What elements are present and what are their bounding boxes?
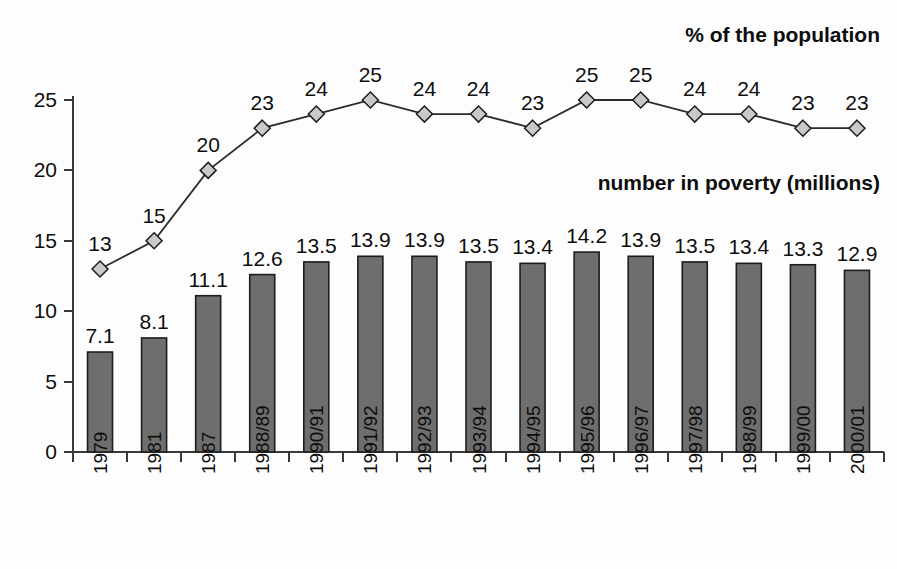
percent-value-label: 25 — [575, 63, 598, 86]
x-axis-label: 1995/96 — [577, 405, 598, 474]
percent-value-label: 24 — [683, 77, 707, 100]
y-tick-label: 0 — [45, 440, 57, 463]
percent-value-labels: 131520232425242423252524242323 — [88, 63, 868, 255]
x-axis-label: 2000/01 — [847, 405, 868, 474]
x-axis-label: 1996/97 — [631, 405, 652, 474]
percent-value-label: 15 — [142, 204, 165, 227]
bar-value-label: 13.4 — [512, 235, 553, 258]
bar-value-label: 12.6 — [242, 247, 283, 270]
percent-value-label: 23 — [791, 91, 814, 114]
percent-value-label: 23 — [521, 91, 544, 114]
percent-marker — [633, 92, 649, 108]
percent-marker — [200, 162, 216, 178]
millions-series-caption: number in poverty (millions) — [598, 171, 880, 194]
bar-value-label: 13.9 — [620, 228, 661, 251]
y-axis-ticks — [64, 100, 73, 452]
x-axis-label: 1999/00 — [793, 405, 814, 474]
bar — [196, 296, 221, 452]
percent-value-label: 24 — [467, 77, 491, 100]
bar-value-label: 14.2 — [566, 224, 607, 247]
percent-value-label: 25 — [359, 63, 382, 86]
y-tick-label: 5 — [45, 370, 57, 393]
percent-value-label: 24 — [413, 77, 437, 100]
y-axis-tick-labels: 0510152025 — [34, 88, 57, 463]
percent-marker — [92, 261, 108, 277]
x-axis-label: 1979 — [90, 432, 111, 474]
percent-marker — [795, 120, 811, 136]
percent-marker — [471, 106, 487, 122]
percent-value-label: 25 — [629, 63, 652, 86]
bar-value-label: 13.5 — [674, 234, 715, 257]
x-axis-label: 1994/95 — [523, 405, 544, 474]
x-axis-label: 1998/99 — [739, 405, 760, 474]
y-tick-label: 15 — [34, 229, 57, 252]
x-axis-label: 1991/92 — [360, 405, 381, 474]
percent-marker — [687, 106, 703, 122]
percent-marker — [579, 92, 595, 108]
bar-value-label: 13.9 — [350, 228, 391, 251]
percent-marker — [525, 120, 541, 136]
x-axis-label: 1992/93 — [414, 405, 435, 474]
percent-value-label: 24 — [737, 77, 761, 100]
percent-marker — [741, 106, 757, 122]
poverty-chart: 0510152025 7.18.111.112.613.513.913.913.… — [0, 0, 897, 569]
percent-value-label: 20 — [196, 133, 219, 156]
percent-marker — [254, 120, 270, 136]
percent-value-label: 23 — [845, 91, 868, 114]
bar-value-label: 13.4 — [728, 235, 769, 258]
percent-marker — [849, 120, 865, 136]
percent-marker — [308, 106, 324, 122]
bar-value-label: 13.3 — [782, 237, 823, 260]
bar-value-label: 7.1 — [85, 324, 114, 347]
x-axis-label: 1987 — [198, 432, 219, 474]
x-axis-label: 1993/94 — [469, 405, 490, 474]
percent-marker — [416, 106, 432, 122]
percent-value-label: 23 — [251, 91, 274, 114]
bar-value-label: 13.5 — [296, 234, 337, 257]
percent-value-label: 13 — [88, 232, 111, 255]
bar-value-label: 12.9 — [837, 242, 878, 265]
bar-value-label: 8.1 — [139, 310, 168, 333]
bar-value-label: 13.9 — [404, 228, 445, 251]
x-axis-label: 1988/89 — [252, 405, 273, 474]
percent-series-caption: % of the population — [685, 23, 880, 46]
percent-marker — [146, 233, 162, 249]
percent-value-label: 24 — [305, 77, 329, 100]
y-tick-label: 25 — [34, 88, 57, 111]
percent-marker — [362, 92, 378, 108]
y-tick-label: 20 — [34, 158, 57, 181]
x-axis-label: 1990/91 — [306, 405, 327, 474]
chart-canvas: 0510152025 7.18.111.112.613.513.913.913.… — [0, 0, 897, 569]
x-axis-label: 1997/98 — [685, 405, 706, 474]
bar-value-label: 11.1 — [189, 268, 228, 291]
bar-value-label: 13.5 — [458, 234, 499, 257]
x-axis-label: 1981 — [144, 432, 165, 474]
y-tick-label: 10 — [34, 299, 57, 322]
